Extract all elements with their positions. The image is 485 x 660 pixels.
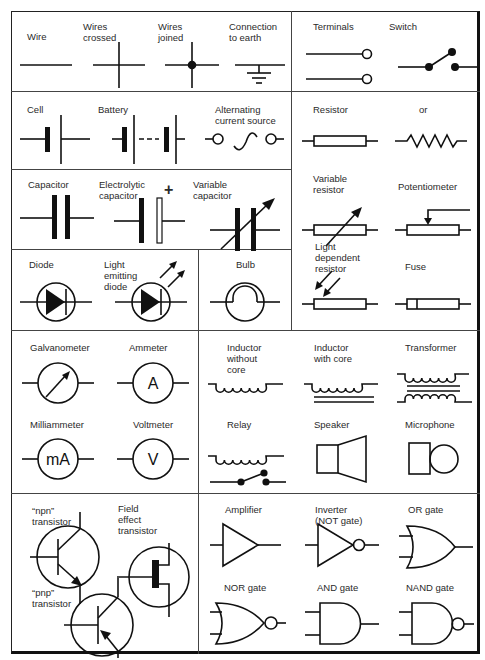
label-earth: Connection to earth: [229, 21, 277, 43]
label-fuse: Fuse: [405, 261, 426, 272]
fuse-icon: [395, 294, 480, 314]
divider: [11, 169, 291, 170]
label-capacitor: Capacitor: [28, 179, 69, 190]
divider: [11, 330, 480, 331]
divider: [11, 91, 480, 92]
label-variable-resistor: Variable resistor: [313, 173, 347, 195]
nor-gate-icon: [208, 600, 293, 650]
label-diode: Diode: [29, 259, 54, 270]
label-amplifier: Amplifier: [225, 504, 262, 515]
diode-icon: [20, 280, 95, 325]
label-terminals: Terminals: [313, 21, 354, 32]
earth-icon: [235, 60, 287, 90]
label-inductor-core: Inductor with core: [314, 342, 352, 364]
label-speaker: Speaker: [314, 419, 349, 430]
led-icon: [113, 258, 193, 328]
label-resistor: Resistor: [313, 104, 348, 115]
ldr-icon: [302, 268, 382, 318]
label-wire: Wire: [27, 31, 47, 42]
relay-icon: [208, 452, 288, 492]
label-microphone: Microphone: [405, 419, 455, 430]
galvanometer-icon: [20, 360, 100, 405]
bulb-icon: [208, 280, 288, 325]
label-potentiometer: Potentiometer: [398, 181, 457, 192]
label-or: or: [419, 104, 427, 115]
pnp-transistor-icon: [64, 573, 134, 658]
divider: [291, 11, 292, 330]
microphone-icon: [407, 440, 467, 480]
wires-joined-icon: [165, 40, 220, 90]
label-bulb: Bulb: [236, 259, 255, 270]
label-nand-gate: NAND gate: [406, 582, 454, 593]
ac-source-icon: [203, 125, 288, 155]
label-and-gate: AND gate: [317, 582, 358, 593]
electrolytic-plus: +: [164, 184, 173, 195]
variable-capacitor-icon: [208, 190, 293, 250]
label-ammeter: Ammeter: [129, 342, 168, 353]
label-or-gate: OR gate: [408, 504, 443, 515]
inductor-icon: [208, 380, 288, 400]
battery-icon: [112, 112, 187, 167]
inverter-icon: [303, 520, 383, 570]
label-milliammeter: Milliammeter: [30, 419, 84, 430]
label-transformer: Transformer: [405, 342, 456, 353]
label-switch: Switch: [389, 21, 417, 32]
or-gate-icon: [397, 523, 482, 573]
speaker-icon: [315, 434, 375, 489]
ammeter-icon: A: [115, 360, 195, 405]
voltmeter-glyph: V: [148, 451, 159, 468]
resistor-icon: [302, 131, 382, 151]
label-relay: Relay: [227, 419, 251, 430]
resistor-zigzag-icon: [395, 131, 475, 151]
divider: [11, 493, 480, 494]
switch-icon: [395, 45, 480, 75]
inductor-core-icon: [304, 380, 384, 410]
and-gate-icon: [303, 600, 388, 650]
milliammeter-glyph: mA: [46, 451, 70, 468]
wire-icon: [20, 60, 80, 70]
label-nor-gate: NOR gate: [224, 582, 266, 593]
milliammeter-icon: mA: [20, 436, 100, 481]
nand-gate-icon: [397, 600, 482, 650]
amplifier-icon: [208, 520, 288, 570]
wires-crossed-icon: [93, 40, 148, 90]
label-ac-source: Alternating current source: [215, 104, 276, 126]
voltmeter-icon: V: [115, 436, 195, 481]
label-inductor-no-core: Inductor without core: [227, 342, 261, 375]
cell-icon: [20, 112, 95, 167]
label-voltmeter: Voltmeter: [133, 419, 173, 430]
terminals-icon: [304, 48, 374, 88]
electrolytic-capacitor-icon: [112, 196, 192, 246]
potentiometer-icon: [395, 198, 480, 248]
transformer-icon: [397, 370, 477, 410]
divider: [198, 249, 199, 330]
label-galvanometer: Galvanometer: [30, 342, 90, 353]
ammeter-glyph: A: [148, 375, 159, 392]
capacitor-icon: [20, 192, 100, 242]
divider: [198, 330, 199, 654]
